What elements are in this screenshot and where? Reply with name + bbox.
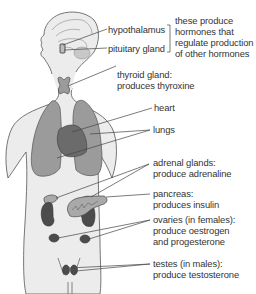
label-lungs: lungs bbox=[153, 124, 175, 135]
testes-line: produce testosterone bbox=[153, 269, 239, 280]
testes-line: testes (in males): bbox=[153, 258, 239, 269]
thyroid-line: produces thyroxine bbox=[117, 80, 194, 91]
label-brain-note: these produce hormones that regulate pro… bbox=[175, 15, 253, 59]
left-kidney bbox=[41, 202, 54, 226]
adrenal-line: produce adrenaline bbox=[153, 168, 231, 179]
brain-note-line: of other hormones bbox=[175, 48, 253, 59]
label-adrenal-glands: adrenal glands: produce adrenaline bbox=[153, 157, 231, 179]
right-testis bbox=[71, 265, 78, 275]
pancreas-line: produces insulin bbox=[153, 199, 219, 210]
label-heart: heart bbox=[154, 102, 175, 113]
pancreas-line: pancreas: bbox=[153, 188, 219, 199]
label-testes: testes (in males): produce testosterone bbox=[153, 258, 239, 280]
ovaries-line: and progesterone bbox=[153, 236, 235, 247]
head-outline bbox=[41, 12, 99, 74]
ovaries-line: produce oestrogen bbox=[153, 225, 235, 236]
brain-bracket bbox=[167, 25, 170, 52]
brain-note-line: regulate production bbox=[175, 37, 253, 48]
label-hypothalamus: hypothalamus bbox=[108, 24, 165, 35]
left-testis bbox=[63, 265, 70, 275]
body-outline bbox=[6, 88, 117, 294]
ovaries-line: ovaries (in females): bbox=[153, 214, 235, 225]
brain-note-line: these produce bbox=[175, 15, 253, 26]
label-thyroid: thyroid gland: produces thyroxine bbox=[117, 69, 194, 91]
pituitary-hypothalamus-gland bbox=[60, 44, 65, 53]
label-pituitary-gland: pituitary gland bbox=[108, 43, 165, 54]
left-ovary bbox=[49, 234, 59, 242]
leader-pancreas bbox=[106, 194, 150, 197]
label-pancreas: pancreas: produces insulin bbox=[153, 188, 219, 210]
label-ovaries: ovaries (in females): produce oestrogen … bbox=[153, 214, 235, 247]
brain-note-line: hormones that bbox=[175, 26, 253, 37]
right-ovary bbox=[80, 235, 90, 243]
adrenal-line: adrenal glands: bbox=[153, 157, 231, 168]
thyroid-line: thyroid gland: bbox=[117, 69, 194, 80]
